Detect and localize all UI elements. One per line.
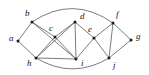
graph-node-label-d: d [80,11,85,21]
graph-node-label-a: a [9,33,14,43]
graph-node-i [75,58,78,61]
graph-node-label-b: b [25,8,30,18]
graph-edge-e-f [94,23,113,38]
graph-node-h [35,57,38,60]
graph-edge-f-g [113,23,131,40]
graph-figure: abcdefghij [0,0,149,75]
graph-edge-e-i [76,38,94,59]
graph-node-label-j: j [112,60,116,70]
graph-edge-d-i [75,22,76,59]
graph-edge-b-f [32,8,113,23]
graph-canvas: abcdefghij [0,0,149,75]
graph-node-label-f: f [116,9,120,19]
graph-node-e [93,37,96,40]
graph-node-b [31,21,34,24]
graph-edge-f-j [109,23,113,58]
graph-node-f [112,22,115,25]
graph-node-g [130,39,133,42]
graph-edge-a-h [18,41,36,58]
graph-edge-a-b [18,22,32,41]
graph-edge-h-i [36,58,76,59]
graph-edge-d-h [36,22,75,58]
graph-edge-g-j [109,40,131,58]
graph-node-d [74,21,77,24]
graph-node-label-h: h [27,58,32,68]
graph-edge-e-j [94,38,109,58]
node-layer [17,21,133,61]
graph-node-label-e: e [88,24,92,34]
graph-node-label-c: c [49,23,53,33]
graph-node-c [54,36,57,39]
graph-node-j [108,57,111,60]
graph-node-a [17,40,20,43]
graph-node-label-i: i [81,58,84,68]
graph-edge-c-i [55,37,76,59]
graph-node-label-g: g [136,31,141,41]
graph-edge-h-j [36,58,109,69]
label-layer: abcdefghij [9,8,141,70]
